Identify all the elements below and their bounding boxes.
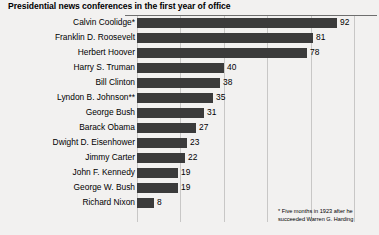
bar <box>137 153 185 163</box>
bar-chart: Presidential news conferences in the fir… <box>0 0 379 235</box>
bar-category-label: Dwight D. Eisenhower <box>53 137 135 148</box>
bar <box>137 183 178 193</box>
bar <box>137 63 224 73</box>
bar-category-label: George W. Bush <box>74 182 135 193</box>
bar-row: George W. Bush19 <box>0 181 379 196</box>
bar-value-label: 78 <box>310 47 319 58</box>
bar-row: Dwight D. Eisenhower23 <box>0 136 379 151</box>
bar-value-label: 8 <box>157 197 162 208</box>
bar-row: Herbert Hoover78 <box>0 46 379 61</box>
bar-category-label: John F. Kennedy <box>73 167 135 178</box>
bar-value-label: 81 <box>316 32 325 43</box>
plot-area: Calvin Coolidge*92Franklin D. Roosevelt8… <box>0 16 379 222</box>
footnote-line-1: * Five months in 1923 after he <box>278 208 378 216</box>
bar-category-label: Richard Nixon <box>82 197 135 208</box>
bar-row: Jimmy Carter22 <box>0 151 379 166</box>
bar <box>137 123 196 133</box>
bar-value-label: 31 <box>207 107 216 118</box>
page-title: Presidential news conferences in the fir… <box>8 1 231 12</box>
bar-category-label: Harry S. Truman <box>74 62 135 73</box>
bar <box>137 93 213 103</box>
bar-value-label: 27 <box>199 122 208 133</box>
bar-value-label: 92 <box>340 17 349 28</box>
bar-row: Bill Clinton38 <box>0 76 379 91</box>
bar <box>137 198 154 208</box>
bar-row: George Bush31 <box>0 106 379 121</box>
bar-row: Franklin D. Roosevelt81 <box>0 31 379 46</box>
bar-category-label: Lyndon B. Johnson** <box>57 92 135 103</box>
bar <box>137 78 220 88</box>
bar-value-label: 19 <box>181 167 190 178</box>
bar-category-label: Herbert Hoover <box>78 47 135 58</box>
bar-category-label: George Bush <box>86 107 135 118</box>
bar <box>137 48 307 58</box>
bar-category-label: Franklin D. Roosevelt <box>55 32 135 43</box>
bar <box>137 108 204 118</box>
bar-category-label: Barack Obama <box>79 122 135 133</box>
footnote: * Five months in 1923 after he succeeded… <box>278 208 378 223</box>
bar-category-label: Calvin Coolidge* <box>73 17 135 28</box>
bar-row: Lyndon B. Johnson**35 <box>0 91 379 106</box>
bar-value-label: 38 <box>223 77 232 88</box>
bar-row: Calvin Coolidge*92 <box>0 16 379 31</box>
bar-value-label: 35 <box>216 92 225 103</box>
bar-category-label: Bill Clinton <box>95 77 135 88</box>
bar-row: Barack Obama27 <box>0 121 379 136</box>
bar-value-label: 40 <box>227 62 236 73</box>
bar-row: John F. Kennedy19 <box>0 166 379 181</box>
bar-value-label: 19 <box>181 182 190 193</box>
bar-row: Harry S. Truman40 <box>0 61 379 76</box>
bar-value-label: 23 <box>190 137 199 148</box>
footnote-line-2: succeeded Warren G. Harding <box>278 216 378 224</box>
bar-category-label: Jimmy Carter <box>85 152 135 163</box>
bar <box>137 33 313 43</box>
bar-value-label: 22 <box>188 152 197 163</box>
bar <box>137 138 187 148</box>
bar <box>137 18 337 28</box>
bar <box>137 168 178 178</box>
